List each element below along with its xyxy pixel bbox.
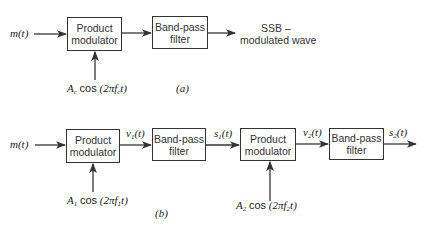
- carrier-b2-arg-end: t): [290, 199, 297, 211]
- filter-a-line2: filter: [170, 33, 190, 45]
- modulator-a-line2: modulator: [71, 34, 118, 46]
- carrier-b1-arg-end: t): [121, 194, 128, 206]
- product-modulator-b1: Product modulator: [66, 129, 120, 163]
- carrier-label-b1: A1 cos (2πf1t): [67, 194, 128, 208]
- bandpass-filter-a: Band-pass filter: [152, 16, 208, 49]
- carrier-b2-arg: (2πf: [269, 199, 287, 211]
- carrier-b1-arg: (2πf: [100, 194, 118, 206]
- filter-b1-line1: Band-pass: [154, 133, 204, 145]
- caption-b: (b): [155, 207, 168, 219]
- carrier-b1-amp-sub: 1: [74, 200, 78, 208]
- ssb-output-line1: SSB –: [240, 22, 312, 34]
- carrier-b2-cos: cos: [249, 199, 266, 211]
- v2-rest: (t): [311, 126, 321, 138]
- input-label-b: m(t): [10, 138, 28, 150]
- caption-a: (a): [176, 82, 189, 94]
- input-label-a: m(t): [10, 27, 28, 39]
- ssb-output-label: SSB – modulated wave: [240, 22, 312, 46]
- carrier-label-a: Ac cos (2πfct): [67, 82, 127, 96]
- connection-arrows: [0, 0, 422, 227]
- carrier-a-arg-end: t): [120, 82, 127, 94]
- carrier-label-b2: A2 cos (2πf2t): [236, 199, 297, 213]
- modulator-b2-line2: modulator: [245, 145, 292, 157]
- v1-rest: (t): [134, 127, 144, 139]
- carrier-b1-cos: cos: [80, 194, 97, 206]
- filter-b2-line1: Band-pass: [331, 132, 381, 144]
- filter-a-line1: Band-pass: [155, 21, 205, 33]
- s1-rest: (t): [222, 127, 232, 139]
- signal-s1-label: s1(t): [214, 127, 232, 141]
- product-modulator-a: Product modulator: [67, 17, 122, 51]
- carrier-b2-amp-sub: 2: [243, 205, 247, 213]
- bandpass-filter-b2: Band-pass filter: [329, 128, 384, 160]
- carrier-a-amp-sub: c: [74, 88, 77, 96]
- modulator-b1-line1: Product: [75, 134, 111, 146]
- ssb-output-line2: modulated wave: [240, 34, 312, 46]
- filter-b2-line2: filter: [347, 144, 367, 156]
- filter-b1-line2: filter: [169, 145, 189, 157]
- bandpass-filter-b1: Band-pass filter: [152, 128, 206, 161]
- modulator-b2-line1: Product: [250, 133, 286, 145]
- carrier-a-arg: (2πf: [99, 82, 117, 94]
- carrier-a-cos: cos: [80, 82, 97, 94]
- modulator-b1-line2: modulator: [70, 146, 117, 158]
- carrier-a-amp: A: [67, 82, 74, 94]
- signal-v1-label: v1(t): [126, 127, 145, 141]
- signal-v2-label: v2(t): [303, 126, 322, 140]
- modulator-a-line1: Product: [76, 22, 112, 34]
- s2-rest: (t): [397, 126, 407, 138]
- product-modulator-b2: Product modulator: [240, 128, 296, 161]
- signal-s2-label: s2(t): [389, 126, 407, 140]
- carrier-b2-amp: A: [236, 199, 243, 211]
- carrier-b1-amp: A: [67, 194, 74, 206]
